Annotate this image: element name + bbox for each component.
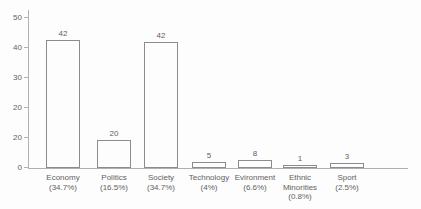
- bar-category-label: Sport(2.5%): [319, 173, 375, 192]
- bar-value-label: 3: [330, 152, 364, 161]
- x-axis-line: [28, 168, 408, 169]
- y-tick-mark: [24, 137, 28, 138]
- y-tick-mark: [24, 17, 28, 18]
- bar-value-label: 42: [46, 29, 80, 38]
- bar-value-label: 42: [144, 31, 178, 40]
- bar-economy: [46, 40, 80, 168]
- bar-value-label: 5: [192, 151, 226, 160]
- bar-ethnic-minorities: [283, 165, 317, 168]
- y-tick-label: 40: [6, 43, 22, 52]
- y-tick-mark: [24, 77, 28, 78]
- bar-category-label-line: Economy: [35, 173, 91, 183]
- y-tick-label: 20: [6, 133, 22, 142]
- y-tick-mark: [24, 167, 28, 168]
- y-tick-mark: [24, 107, 28, 108]
- y-tick-label: 50: [6, 13, 22, 22]
- bar-evironment: [238, 160, 272, 168]
- bar-value-label: 20: [97, 129, 131, 138]
- bar-category-label-line: (2.5%): [319, 183, 375, 193]
- bar-sport: [330, 163, 364, 168]
- bar-category-label: Economy(34.7%): [35, 173, 91, 192]
- y-tick-label: 30: [6, 73, 22, 82]
- bar-society: [144, 42, 178, 168]
- bar-politics: [97, 140, 131, 168]
- bar-chart: 50403020200 42Economy(34.7%)20Politics(1…: [0, 0, 421, 209]
- bar-category-label-line: (34.7%): [35, 183, 91, 193]
- bar-value-label: 8: [238, 149, 272, 158]
- bar-category-label-line: Sport: [319, 173, 375, 183]
- bar-value-label: 1: [283, 154, 317, 163]
- y-tick-mark: [24, 47, 28, 48]
- y-tick-label: 0: [6, 163, 22, 172]
- bar-category-label-line: (0.8%): [272, 192, 328, 202]
- y-axis-line: [28, 10, 29, 169]
- y-tick-label: 20: [6, 103, 22, 112]
- bar-technology: [192, 162, 226, 168]
